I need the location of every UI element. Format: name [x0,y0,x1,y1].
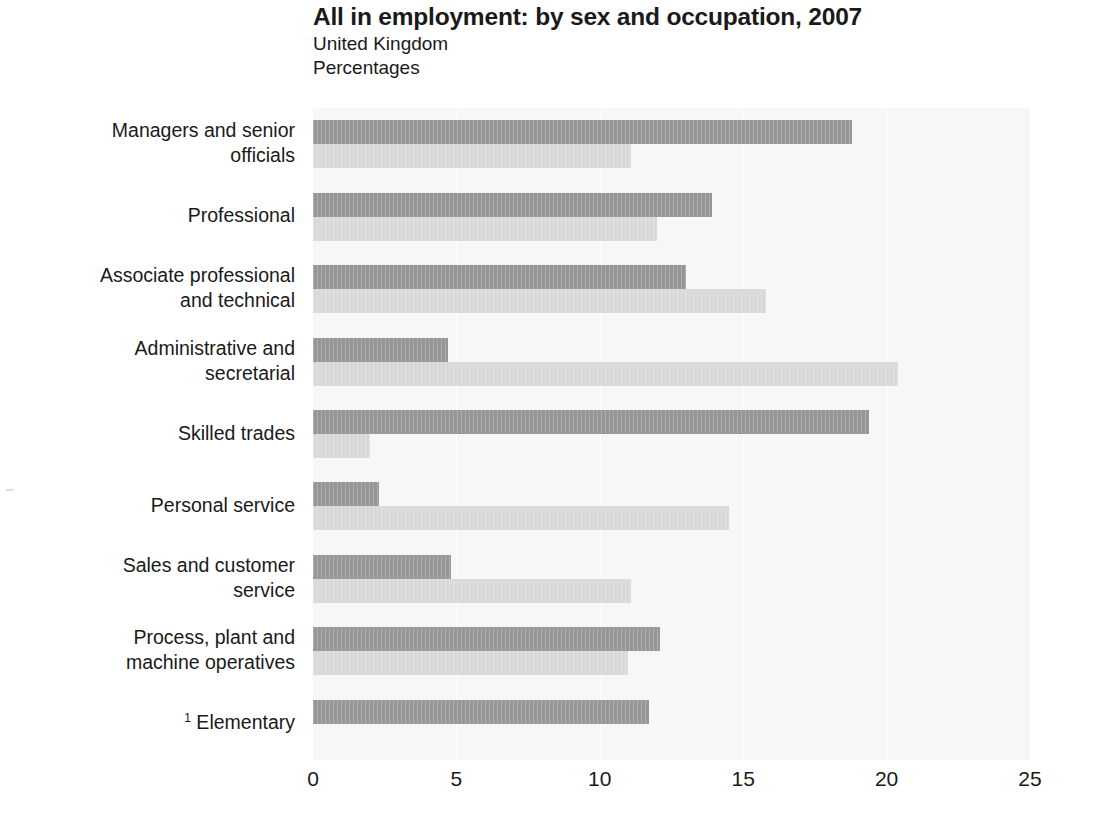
y-axis-label-line: secretarial [0,361,295,386]
bar-men [313,627,660,651]
bar-men [313,338,448,362]
gridline-25 [1030,108,1031,760]
chart-subtitle-region: United Kingdom [313,32,1073,56]
y-axis-label: Associate professionaland technical [0,263,295,313]
y-axis-label-line: Process, plant and [0,625,295,650]
y-axis-label: Skilled trades [0,421,295,446]
x-tick-label: 15 [732,766,755,792]
chart-figure: All in employment: by sex and occupation… [0,0,1103,825]
y-axis-label-line: machine operatives [0,650,295,675]
bar-men [313,700,649,724]
bar-women [313,289,766,313]
bar-group [313,338,1030,386]
bar-group [313,627,1030,675]
y-axis-label-line: Associate professional [0,263,295,288]
y-axis-label: Administrative andsecretarial [0,336,295,386]
y-axis-label: Professional [0,203,295,228]
bar-group [313,265,1030,313]
y-axis-label-line: service [0,578,295,603]
bar-men [313,120,852,144]
y-axis-label: Managers and seniorofficials [0,118,295,168]
y-axis-label: 1 Elementary [0,710,295,735]
bar-men [313,482,379,506]
bar-group [313,700,1030,748]
y-axis-label: Personal service [0,493,295,518]
chart-subtitle-units: Percentages [313,56,1073,80]
bar-women [313,506,729,530]
bar-men [313,410,869,434]
x-tick-label: 25 [1018,766,1041,792]
y-axis-label-line: officials [0,143,295,168]
bar-women [313,651,628,675]
bar-group [313,193,1030,241]
y-axis-label-line: Professional [0,203,295,228]
bar-women [313,144,631,168]
y-axis-category-labels: Managers and seniorofficialsProfessional… [0,108,295,760]
x-tick-label: 10 [588,766,611,792]
bar-group [313,120,1030,168]
plot-area: MenWomen [313,108,1030,760]
chart-header: All in employment: by sex and occupation… [313,2,1073,80]
y-axis-label-line: and technical [0,288,295,313]
bar-group [313,410,1030,458]
y-axis-label-line: Managers and senior [0,118,295,143]
x-tick-label: 20 [875,766,898,792]
y-axis-label: Sales and customerservice [0,553,295,603]
y-axis-label-line: Administrative and [0,336,295,361]
footnote-marker: 1 [184,711,191,725]
bar-group [313,482,1030,530]
y-axis-label-line: 1 Elementary [0,710,295,735]
bar-men [313,265,686,289]
x-tick-label: 0 [307,766,319,792]
bar-group [313,555,1030,603]
y-axis-label-line: Personal service [0,493,295,518]
bar-women [313,579,631,603]
y-axis-label-line: Skilled trades [0,421,295,446]
y-axis-label-line: Sales and customer [0,553,295,578]
bar-men [313,555,451,579]
bar-women [313,362,898,386]
bar-women [313,434,370,458]
x-tick-label: 5 [451,766,463,792]
x-axis: 0510152025 [0,766,1103,800]
bar-men [313,193,712,217]
chart-title: All in employment: by sex and occupation… [313,2,1073,32]
bar-women [313,217,657,241]
y-axis-label: Process, plant andmachine operatives [0,625,295,675]
